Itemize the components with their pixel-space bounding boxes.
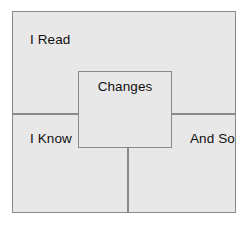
changes-box: Changes [78, 71, 172, 148]
label-and-so: And So [190, 132, 235, 146]
label-changes: Changes [79, 80, 171, 94]
vertical-divider [127, 148, 129, 213]
label-i-read: I Read [30, 33, 70, 47]
diagram-canvas: I Read I Know And So Changes [0, 0, 248, 226]
label-i-know: I Know [30, 132, 72, 146]
